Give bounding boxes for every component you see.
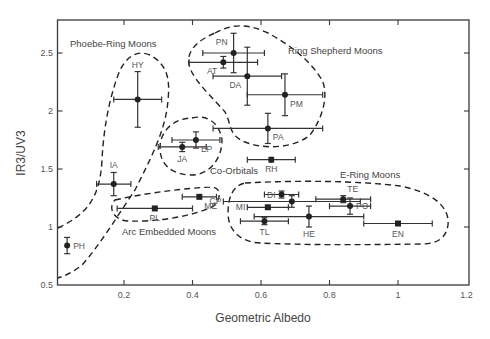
data-point-pm: PM <box>247 74 322 116</box>
y-tick-label: 0.5 <box>40 280 53 290</box>
point-label: RH <box>265 164 277 174</box>
group-outlines <box>58 26 448 278</box>
group-label-phoebe-ring-moons: Phoebe-Ring Moons <box>70 38 157 49</box>
point-label: PM <box>290 99 303 109</box>
group-label-co-orbitals: Co-Orbitals <box>210 165 258 176</box>
data-point-ph: PH <box>64 237 85 253</box>
group-label-e-ring-moons: E-Ring Moons <box>340 169 400 180</box>
point-label: PN <box>216 37 228 47</box>
group-outline-arc-embedded-moons <box>112 187 220 221</box>
data-point-mi: MI <box>236 202 289 212</box>
marker-square <box>196 194 202 200</box>
data-point-po: PO <box>330 198 371 214</box>
x-tick-label: 0.6 <box>255 290 268 300</box>
marker-circle <box>282 92 288 98</box>
point-label: PH <box>73 241 85 251</box>
data-point-ep: EP <box>172 132 220 154</box>
marker-circle <box>279 192 285 198</box>
y-tick-label: 1.5 <box>40 164 53 174</box>
marker-circle <box>231 50 237 56</box>
point-label: TL <box>259 227 269 237</box>
marker-circle <box>64 243 70 249</box>
marker-circle <box>244 73 250 79</box>
point-label: DI <box>267 190 276 200</box>
marker-square <box>265 204 271 210</box>
marker-circle <box>179 144 185 150</box>
point-label: PO <box>356 201 369 211</box>
group-label-ring-shepherd-moons: Ring Shepherd Moons <box>288 45 383 56</box>
marker-circle <box>265 125 271 131</box>
point-label: EP <box>201 144 213 154</box>
point-label: AT <box>207 66 217 76</box>
point-label: HE <box>303 229 315 239</box>
marker-circle <box>261 218 267 224</box>
scatter-chart: Phoebe-Ring Moons Ring Shepherd Moons Co… <box>0 0 490 339</box>
marker-circle <box>289 198 295 204</box>
x-tick-label: 1.2 <box>460 290 473 300</box>
point-label: IA <box>110 160 118 170</box>
x-tick-label: 0.4 <box>186 290 199 300</box>
point-label: DA <box>229 80 241 90</box>
data-point-te: TE <box>316 184 371 202</box>
data-point-en: EN <box>364 221 433 239</box>
plot-frame <box>58 20 470 285</box>
marker-circle <box>306 214 312 220</box>
y-tick-label: 2.5 <box>40 48 53 58</box>
x-tick-label: 0.8 <box>323 290 336 300</box>
y-tick-label: 2 <box>48 106 53 116</box>
marker-circle <box>340 196 346 202</box>
marker-square <box>395 221 401 227</box>
point-label: PL <box>150 213 161 223</box>
point-label: JA <box>177 154 187 164</box>
marker-circle <box>268 157 274 163</box>
point-label: EN <box>392 229 404 239</box>
point-label: HY <box>132 60 144 70</box>
x-tick-label: 1 <box>395 290 400 300</box>
data-point-ja: JA <box>158 142 206 163</box>
point-label: CP <box>210 196 222 206</box>
data-point-hy: HY <box>114 60 162 128</box>
x-tick-label: 0.2 <box>118 290 131 300</box>
marker-circle <box>111 181 117 187</box>
y-tick-label: 1 <box>48 222 53 232</box>
data-point-pa: PA <box>213 113 323 143</box>
marker-circle <box>135 96 141 102</box>
y-axis-title: IR3/UV3 <box>14 130 28 176</box>
data-point-tl: TL <box>240 218 288 237</box>
marker-circle <box>220 59 226 65</box>
point-label: TE <box>347 184 358 194</box>
point-label: MI <box>236 202 245 212</box>
marker-circle <box>193 137 199 143</box>
data-point-di: DI <box>264 190 298 200</box>
data-point-he: HE <box>254 206 364 239</box>
data-point-pl: PL <box>117 205 192 223</box>
marker-square <box>152 205 158 211</box>
point-label: PA <box>273 132 284 142</box>
x-axis-title: Geometric Albedo <box>215 311 311 325</box>
marker-circle <box>347 203 353 209</box>
axes <box>58 20 470 285</box>
group-label-arc-embedded-moons: Arc Embedded Moons <box>122 226 216 237</box>
